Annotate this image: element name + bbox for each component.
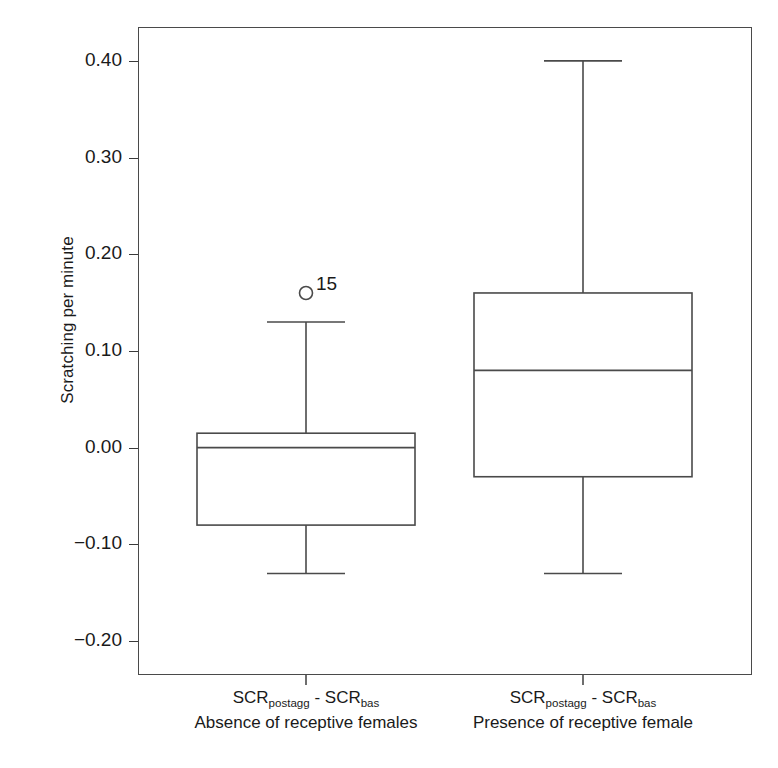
y-tick-label: 0.00 xyxy=(58,436,122,458)
y-tick-4: 0.00 xyxy=(58,436,122,460)
formula-prefix: SCR xyxy=(510,688,546,707)
x-axis-group-presence: SCRpostagg - SCRbas Presence of receptiv… xyxy=(383,686,778,734)
y-tick-3: 0.10 xyxy=(58,339,122,363)
formula-mid: - SCR xyxy=(310,688,361,707)
x-axis-formula-presence: SCRpostagg - SCRbas xyxy=(383,686,778,711)
formula-subscript-bas: bas xyxy=(638,697,657,709)
y-tick-mark xyxy=(129,351,138,352)
y-tick-label: −0.20 xyxy=(58,629,122,651)
boxplot-figure: Scratching per minute 0.400.300.200.100.… xyxy=(0,0,778,768)
y-tick-mark xyxy=(129,544,138,545)
y-axis-label: Scratching per minute xyxy=(48,40,88,600)
y-tick-label: 0.30 xyxy=(58,146,122,168)
y-tick-label: 0.40 xyxy=(58,49,122,71)
formula-subscript-bas: bas xyxy=(361,697,380,709)
x-axis-caption-presence: Presence of receptive female xyxy=(383,711,778,734)
formula-subscript-postagg: postagg xyxy=(546,697,587,709)
y-tick-mark xyxy=(129,448,138,449)
y-tick-label: 0.20 xyxy=(58,242,122,264)
y-tick-mark xyxy=(129,641,138,642)
y-tick-mark xyxy=(129,61,138,62)
y-tick-0: 0.40 xyxy=(58,49,122,73)
plot-frame xyxy=(138,27,752,675)
y-tick-label: −0.10 xyxy=(58,532,122,554)
formula-subscript-postagg: postagg xyxy=(269,697,310,709)
y-tick-mark xyxy=(129,158,138,159)
formula-prefix: SCR xyxy=(233,688,269,707)
y-tick-2: 0.20 xyxy=(58,242,122,266)
y-tick-label: 0.10 xyxy=(58,339,122,361)
formula-mid: - SCR xyxy=(587,688,638,707)
y-tick-1: 0.30 xyxy=(58,146,122,170)
y-tick-mark xyxy=(129,254,138,255)
y-tick-6: −0.20 xyxy=(58,629,122,653)
outlier-label-15: 15 xyxy=(316,273,337,295)
y-tick-5: −0.10 xyxy=(58,532,122,556)
